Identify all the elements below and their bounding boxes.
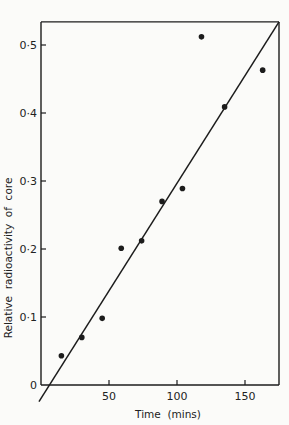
y-tick-label: 0 <box>30 379 37 392</box>
data-point <box>59 353 65 359</box>
y-tick-label: 0·2 <box>20 243 38 256</box>
regression-line <box>39 22 279 402</box>
y-axis-ticks: 00·10·20·30·40·5 <box>20 39 47 392</box>
y-axis-label: Relative radioactivity of core <box>2 178 14 339</box>
x-axis-ticks: 50100150 <box>102 380 256 403</box>
x-axis-label: Time (mins) <box>134 408 201 420</box>
data-point <box>99 316 105 322</box>
data-point <box>260 67 266 73</box>
y-tick-label: 0·1 <box>20 311 38 324</box>
y-tick-label: 0·3 <box>20 175 38 188</box>
x-tick-label: 150 <box>235 390 256 403</box>
x-tick-label: 100 <box>167 390 188 403</box>
data-point <box>79 335 85 341</box>
data-point <box>180 186 186 192</box>
scatter-chart: 00·10·20·30·40·5 50100150 Time (mins) Re… <box>0 0 289 425</box>
data-point <box>118 246 124 252</box>
data-point <box>222 104 228 110</box>
data-points <box>59 34 266 359</box>
y-tick-label: 0·5 <box>20 39 38 52</box>
data-point <box>139 238 145 244</box>
fitted-line <box>39 22 279 402</box>
x-tick-label: 50 <box>102 390 116 403</box>
data-point <box>159 199 165 205</box>
y-tick-label: 0·4 <box>20 107 38 120</box>
plot-frame <box>41 22 279 385</box>
data-point <box>199 34 205 40</box>
